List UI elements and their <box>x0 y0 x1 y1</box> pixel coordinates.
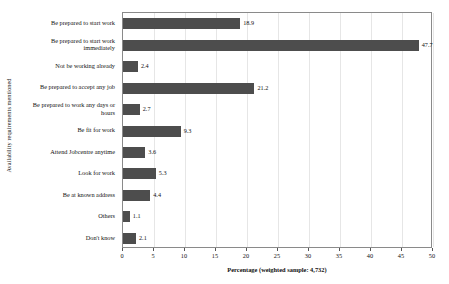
category-label-line: Not be working already <box>16 62 115 69</box>
category-label: Attend Jobcentre anytime <box>16 148 115 155</box>
x-tick-mark <box>246 248 247 251</box>
x-tick-mark <box>370 248 371 251</box>
x-tick-label: 25 <box>274 252 280 259</box>
x-tick-label: 0 <box>120 252 123 259</box>
category-label-line: Be at known address <box>16 191 115 198</box>
bar-row: 1.1 <box>123 211 433 222</box>
category-label: Be at known address <box>16 191 115 198</box>
category-label: Look for work <box>16 169 115 176</box>
category-label-line: immediately <box>16 44 115 51</box>
x-tick-mark <box>401 248 402 251</box>
x-tick-label: 20 <box>243 252 249 259</box>
bar-row: 21.2 <box>123 83 433 94</box>
bar-value-label: 47.7 <box>422 41 433 48</box>
plot-area: 18.947.72.421.22.79.33.65.34.41.12.1 <box>122 12 432 248</box>
bar <box>123 83 254 94</box>
bar <box>123 104 140 115</box>
x-tick-mark <box>184 248 185 251</box>
category-label-line: Be prepared to work any days or <box>16 101 115 108</box>
bar-row: 18.9 <box>123 18 433 29</box>
bar-value-label: 2.1 <box>139 234 147 241</box>
bar-value-label: 2.7 <box>143 105 151 112</box>
x-axis-ticks: 05101520253035404550 <box>122 248 432 264</box>
bar-value-label: 2.4 <box>141 62 149 69</box>
x-tick-mark <box>339 248 340 251</box>
bar <box>123 147 145 158</box>
x-axis-label: Percentage (weighted sample: 4,732) <box>122 266 432 273</box>
bar <box>123 168 156 179</box>
plot-inner: 18.947.72.421.22.79.33.65.34.41.12.1 <box>123 13 431 247</box>
bar-value-label: 5.3 <box>159 169 167 176</box>
bar-value-label: 9.3 <box>184 127 192 134</box>
bar-row: 47.7 <box>123 40 433 51</box>
bar <box>123 126 181 137</box>
bar-row: 3.6 <box>123 147 433 158</box>
bar-value-label: 4.4 <box>153 191 161 198</box>
x-tick-mark <box>432 248 433 251</box>
bar-row: 9.3 <box>123 126 433 137</box>
y-axis-label: Availability requirements mentioned <box>5 78 12 172</box>
x-tick-mark <box>277 248 278 251</box>
x-tick-label: 10 <box>181 252 187 259</box>
bar-row: 2.4 <box>123 61 433 72</box>
bar <box>123 61 138 72</box>
category-label: Don't know <box>16 234 115 241</box>
category-label-line: Be prepared to start work <box>16 37 115 44</box>
bar-value-label: 18.9 <box>243 19 254 26</box>
category-label-column: Be prepared to start workBe prepared to … <box>16 12 119 248</box>
category-label-line: Be fit for work <box>16 126 115 133</box>
gridline <box>433 13 434 247</box>
x-tick-label: 15 <box>212 252 218 259</box>
category-label: Be prepared to start work <box>16 19 115 26</box>
x-tick-mark <box>153 248 154 251</box>
bar-value-label: 21.2 <box>257 84 268 91</box>
x-tick-label: 35 <box>336 252 342 259</box>
category-label-line: hours <box>16 109 115 116</box>
x-tick-label: 50 <box>429 252 435 259</box>
category-label-line: Others <box>16 212 115 219</box>
x-tick-mark <box>122 248 123 251</box>
bar <box>123 211 130 222</box>
bar-row: 2.7 <box>123 104 433 115</box>
bar-value-label: 1.1 <box>133 212 141 219</box>
category-label-line: Attend Jobcentre anytime <box>16 148 115 155</box>
x-tick-label: 30 <box>305 252 311 259</box>
category-label: Be prepared to work any days orhours <box>16 101 115 116</box>
category-label-line: Be prepared to accept any job <box>16 83 115 90</box>
bar-row: 5.3 <box>123 168 433 179</box>
bar-chart-figure: Availability requirements mentioned Be p… <box>0 0 449 284</box>
x-tick-mark <box>308 248 309 251</box>
category-label-line: Be prepared to start work <box>16 19 115 26</box>
y-axis-label-container: Availability requirements mentioned <box>0 0 16 250</box>
category-label: Others <box>16 212 115 219</box>
bar-row: 4.4 <box>123 190 433 201</box>
category-label: Be prepared to accept any job <box>16 83 115 90</box>
bar-row: 2.1 <box>123 233 433 244</box>
bar <box>123 233 136 244</box>
category-label: Be prepared to start workimmediately <box>16 37 115 52</box>
x-tick-label: 45 <box>398 252 404 259</box>
x-tick-mark <box>215 248 216 251</box>
bar <box>123 190 150 201</box>
category-label: Be fit for work <box>16 126 115 133</box>
bar <box>123 40 419 51</box>
bar-value-label: 3.6 <box>148 148 156 155</box>
category-label-line: Look for work <box>16 169 115 176</box>
category-label-line: Don't know <box>16 234 115 241</box>
x-tick-label: 5 <box>151 252 154 259</box>
category-label: Not be working already <box>16 62 115 69</box>
x-tick-label: 40 <box>367 252 373 259</box>
bar <box>123 18 240 29</box>
